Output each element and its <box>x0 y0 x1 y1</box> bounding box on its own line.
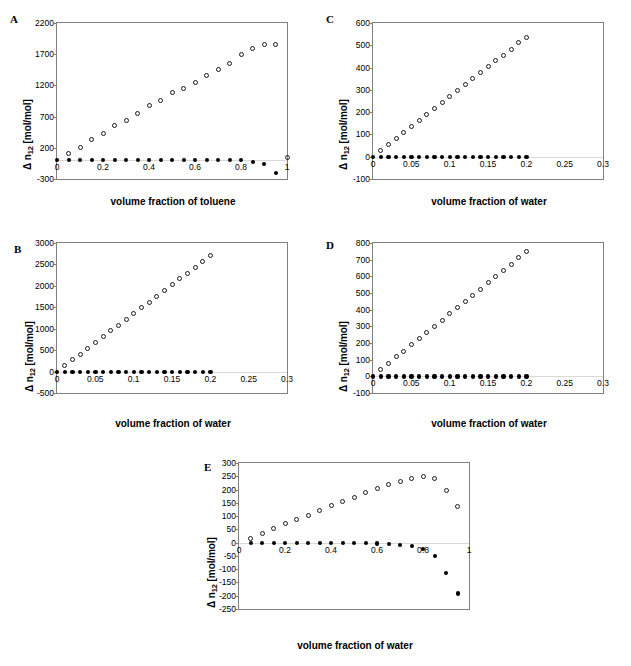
data-point-filled <box>170 370 174 374</box>
y-tick-label: 2500 <box>35 259 54 269</box>
y-tick-mark <box>54 243 57 244</box>
x-axis-label-d: volume fraction of water <box>374 418 604 429</box>
data-point-open <box>124 317 129 322</box>
y-tick-label: 200 <box>356 107 370 117</box>
data-point-filled <box>274 171 278 175</box>
y-tick-mark <box>370 112 373 113</box>
y-tick-mark <box>370 45 373 46</box>
x-tick-label: 0.05 <box>403 378 420 388</box>
data-point-open <box>432 476 437 481</box>
y-tick-label: -100 <box>353 174 370 184</box>
data-point-filled <box>432 374 436 378</box>
data-point-open <box>185 271 190 276</box>
data-point-open <box>524 35 529 40</box>
y-tick-mark <box>236 569 239 570</box>
data-point-open <box>116 323 121 328</box>
data-point-filled <box>228 158 232 162</box>
data-point-filled <box>417 155 421 159</box>
data-point-open <box>317 508 322 513</box>
data-point-filled <box>409 155 413 159</box>
data-point-filled <box>193 158 197 162</box>
y-tick-mark <box>370 243 373 244</box>
data-point-open <box>463 299 468 304</box>
y-tick-label: 3000 <box>35 238 54 248</box>
data-point-filled <box>295 541 299 545</box>
y-tick-mark <box>54 393 57 394</box>
data-point-open <box>424 112 429 117</box>
y-axis-label-b: Δ n12 [mol/mol] <box>24 321 35 392</box>
data-point-open <box>394 136 399 141</box>
data-point-filled <box>371 374 375 378</box>
x-tick-label: 0 <box>371 159 376 169</box>
data-point-open <box>193 265 198 270</box>
data-point-open <box>227 61 232 66</box>
data-point-filled <box>375 541 379 545</box>
data-point-open <box>417 336 422 341</box>
data-point-filled <box>262 162 266 166</box>
data-point-open <box>409 124 414 129</box>
data-point-open <box>62 363 67 368</box>
data-point-open <box>239 52 244 57</box>
y-tick-label: -50 <box>224 551 236 561</box>
x-tick-label: 0.25 <box>556 159 573 169</box>
data-point-open <box>401 349 406 354</box>
data-point-filled <box>471 374 475 378</box>
x-tick-label: 0.25 <box>240 374 257 384</box>
y-tick-mark <box>370 360 373 361</box>
data-point-filled <box>86 370 90 374</box>
y-tick-mark <box>236 463 239 464</box>
data-point-filled <box>409 374 413 378</box>
data-point-open <box>493 58 498 63</box>
data-point-filled <box>93 370 97 374</box>
x-tick-label: 0.2 <box>97 162 109 172</box>
y-tick-label: 600 <box>356 18 370 28</box>
data-point-filled <box>193 370 197 374</box>
data-point-filled <box>448 155 452 159</box>
data-point-filled <box>341 541 345 545</box>
y-tick-label: -300 <box>37 174 54 184</box>
y-tick-label: 700 <box>356 255 370 265</box>
x-tick-label: 0.25 <box>556 378 573 388</box>
data-point-filled <box>205 158 209 162</box>
data-point-open <box>260 531 265 536</box>
data-point-open <box>501 268 506 273</box>
data-point-filled <box>70 370 74 374</box>
data-point-filled <box>386 155 390 159</box>
data-point-filled <box>162 370 166 374</box>
panel-label-b: B <box>14 244 21 255</box>
x-axis-label-a: volume fraction of toluene <box>58 196 288 207</box>
data-point-open <box>193 80 198 85</box>
data-point-filled <box>463 155 467 159</box>
data-point-filled <box>456 591 460 595</box>
x-tick-label: 0.2 <box>204 374 216 384</box>
y-tick-label: 400 <box>356 305 370 315</box>
y-tick-label: 100 <box>356 129 370 139</box>
y-tick-label: 200 <box>356 338 370 348</box>
data-point-filled <box>455 155 459 159</box>
x-tick-label: 0.6 <box>189 162 201 172</box>
data-point-filled <box>139 370 143 374</box>
y-tick-mark <box>370 90 373 91</box>
y-tick-label: 500 <box>356 288 370 298</box>
data-point-open <box>375 486 380 491</box>
y-tick-mark <box>236 543 239 544</box>
data-point-filled <box>433 554 437 558</box>
data-point-open <box>216 67 221 72</box>
data-point-open <box>352 495 357 500</box>
data-point-filled <box>402 155 406 159</box>
y-tick-mark <box>370 393 373 394</box>
data-point-filled <box>113 158 117 162</box>
y-tick-mark <box>370 134 373 135</box>
data-point-open <box>283 521 288 526</box>
data-point-filled <box>425 155 429 159</box>
y-tick-mark <box>236 556 239 557</box>
y-tick-label: 500 <box>356 40 370 50</box>
data-point-filled <box>352 541 356 545</box>
x-tick-label: 0 <box>55 374 60 384</box>
y-tick-label: -100 <box>219 564 236 574</box>
y-tick-label: 300 <box>356 321 370 331</box>
data-point-open <box>455 504 460 509</box>
y-tick-label: 500 <box>40 345 54 355</box>
data-point-filled <box>524 155 528 159</box>
figure-canvas: AΔ n12 [mol/mol]volume fraction of tolue… <box>0 0 631 666</box>
